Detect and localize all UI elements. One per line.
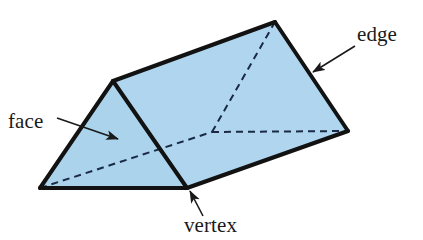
prism-faces	[40, 22, 348, 188]
edge-leader-line	[313, 46, 355, 72]
prism-diagram-canvas: face edge vertex	[0, 0, 423, 240]
label-edge: edge	[357, 22, 397, 46]
label-face: face	[8, 109, 43, 133]
label-vertex: vertex	[184, 213, 237, 237]
prism-figure: face edge vertex	[0, 0, 423, 240]
